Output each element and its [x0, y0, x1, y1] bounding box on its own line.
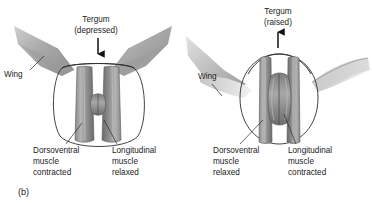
tergum-dome	[248, 54, 311, 74]
right-dorsoventral-label-line2: muscle	[213, 157, 239, 166]
left-tergum-label-line1: Tergum	[82, 15, 109, 24]
diagram-canvas: Tergum (depressed) Wing Dorsoventral mus…	[0, 0, 372, 203]
left-longitudinal-label-line1: Longitudinal	[112, 146, 156, 155]
insect-flight-muscle-figure: Tergum (depressed) Wing Dorsoventral mus…	[0, 0, 372, 203]
left-longitudinal-label-line3: relaxed	[112, 168, 139, 177]
right-longitudinal-label-line2: muscle	[288, 157, 314, 166]
left-panel-thorax	[53, 64, 144, 147]
left-tergum-label-line2: (depressed)	[74, 26, 118, 35]
left-dorsoventral-label-line1: Dorsoventral	[33, 146, 80, 155]
right-longitudinal-label-line1: Longitudinal	[288, 146, 332, 155]
left-wing-label: Wing	[4, 70, 23, 79]
right-wing-label: Wing	[198, 72, 217, 81]
right-dorsoventral-label-line3: relaxed	[213, 168, 240, 177]
panel-tag: (b)	[18, 187, 29, 197]
left-dorsoventral-label-line3: contracted	[33, 168, 72, 177]
longitudinal-muscle-contracted	[268, 73, 291, 125]
right-tergum-label-line1: Tergum	[264, 7, 291, 16]
right-panel-wing-right	[312, 58, 370, 92]
left-dorsoventral-label-line2: muscle	[33, 157, 59, 166]
right-panel-wing-left	[186, 36, 252, 98]
right-panel: Tergum (raised) Wing Dorsoventral muscle…	[186, 7, 370, 177]
left-panel: Tergum (depressed) Wing Dorsoventral mus…	[4, 15, 172, 177]
right-panel-thorax	[240, 54, 318, 144]
longitudinal-muscle-relaxed	[91, 94, 106, 116]
left-longitudinal-label-line2: muscle	[112, 157, 138, 166]
wing-shade-lower-right	[312, 58, 370, 92]
right-longitudinal-label-line3: contracted	[288, 168, 327, 177]
left-panel-wing-right	[112, 26, 172, 76]
right-dorsoventral-label-line1: Dorsoventral	[213, 146, 260, 155]
right-tergum-label-line2: (raised)	[264, 18, 292, 27]
left-panel-wing-left	[14, 26, 74, 76]
